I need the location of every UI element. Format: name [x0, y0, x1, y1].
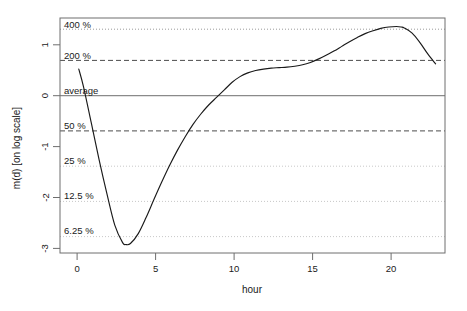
x-axis-tick-labels: 0 5 10 15 20 — [74, 263, 396, 274]
y-tick-label-neg2: -2 — [40, 193, 51, 201]
reference-label-average: average — [64, 85, 98, 96]
reference-label-200: 200 % — [64, 50, 91, 61]
reference-label-12-5: 12.5 % — [64, 190, 94, 201]
y-tick-label-neg1: -1 — [40, 142, 51, 150]
x-axis-title: hour — [242, 284, 263, 295]
y-axis-tick-labels: 1 0 -1 -2 -3 — [40, 42, 51, 252]
reference-label-6-25: 6.25 % — [64, 225, 94, 236]
y-axis-ticks — [53, 45, 60, 249]
y-tick-label-0: 0 — [40, 93, 51, 98]
x-tick-label-10: 10 — [229, 263, 240, 274]
x-tick-label-20: 20 — [386, 263, 397, 274]
y-tick-label-1: 1 — [40, 42, 51, 47]
reference-line-labels: 400 % 200 % average 50 % 25 % 12.5 % 6.2… — [64, 19, 98, 236]
x-axis-ticks — [77, 253, 391, 260]
y-axis-title: m(d) [on log scale] — [11, 107, 22, 189]
reference-label-400: 400 % — [64, 19, 91, 30]
x-tick-label-5: 5 — [153, 263, 158, 274]
reference-lines — [60, 29, 445, 236]
reference-label-50: 50 % — [64, 120, 86, 131]
data-series-line — [79, 27, 436, 245]
line-chart-plot: 1 0 -1 -2 -3 0 5 10 15 20 400 % 200 % av… — [0, 0, 467, 311]
plot-frame — [60, 18, 445, 253]
x-tick-label-0: 0 — [74, 263, 79, 274]
reference-label-25: 25 % — [64, 155, 86, 166]
x-tick-label-15: 15 — [307, 263, 318, 274]
chart-figure: 1 0 -1 -2 -3 0 5 10 15 20 400 % 200 % av… — [0, 0, 467, 311]
y-tick-label-neg3: -3 — [40, 244, 51, 252]
